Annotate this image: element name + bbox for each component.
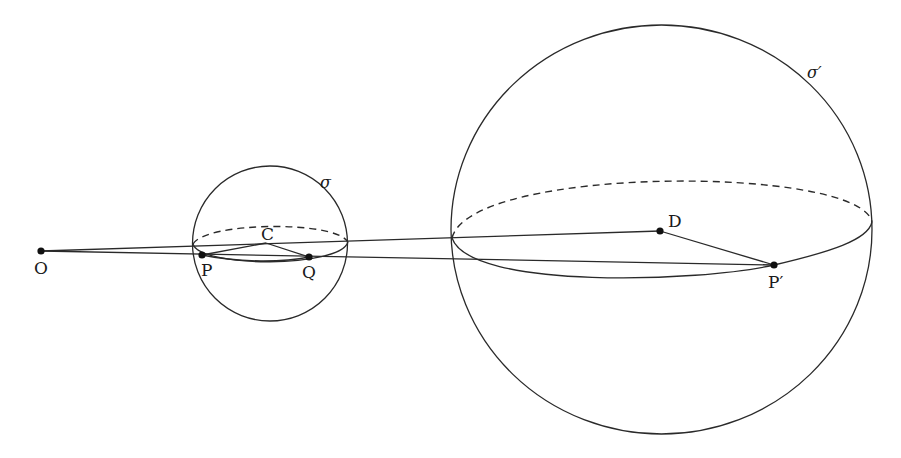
- label-p-prime: P′: [768, 272, 783, 292]
- segment-o-p-prime: [41, 251, 774, 265]
- point-q: [305, 253, 312, 260]
- label-p: P: [201, 260, 212, 280]
- point-p: [198, 251, 205, 258]
- label-d: D: [668, 211, 682, 231]
- inversion-spheres-diagram: O P C Q D P′ σ σ′: [0, 0, 901, 458]
- label-c: C: [261, 224, 274, 244]
- point-d: [656, 227, 663, 234]
- segment-d-p-prime: [660, 231, 774, 265]
- segment-o-d: [41, 231, 660, 251]
- label-sigma: σ: [320, 173, 332, 192]
- label-sigma-prime: σ′: [807, 63, 822, 82]
- point-p-prime: [770, 261, 777, 268]
- label-q: Q: [302, 262, 316, 282]
- label-o: O: [34, 258, 48, 278]
- point-o: [37, 247, 44, 254]
